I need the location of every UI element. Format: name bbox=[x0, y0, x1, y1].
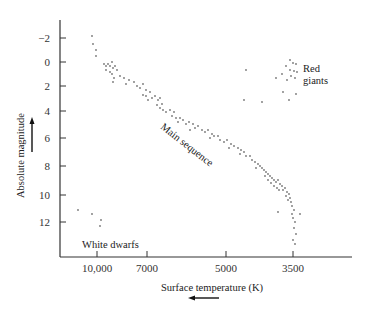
star-point bbox=[173, 111, 175, 113]
star-point bbox=[281, 185, 283, 187]
y-tick-label: 2 bbox=[45, 80, 51, 92]
star-point bbox=[286, 191, 288, 193]
star-point bbox=[279, 183, 281, 185]
chart-annotation: White dwarfs bbox=[82, 239, 139, 250]
annotations: Main sequenceRedgiantsWhite dwarfs bbox=[82, 63, 328, 250]
star-point bbox=[145, 89, 147, 91]
star-point bbox=[109, 71, 111, 73]
star-point bbox=[293, 70, 295, 72]
star-point bbox=[92, 43, 94, 45]
star-point bbox=[105, 69, 107, 71]
x-tick-label: 3500 bbox=[282, 262, 305, 274]
star-point bbox=[145, 95, 147, 97]
star-point bbox=[139, 87, 141, 89]
star-point bbox=[289, 59, 291, 61]
star-point bbox=[77, 209, 79, 211]
y-tick-label: 8 bbox=[45, 160, 51, 172]
star-point bbox=[251, 159, 253, 161]
star-point bbox=[165, 111, 167, 113]
star-point bbox=[192, 123, 194, 125]
star-point bbox=[292, 239, 294, 241]
star-point bbox=[91, 213, 93, 215]
star-point bbox=[201, 129, 203, 131]
chart-annotation: giants bbox=[303, 75, 328, 86]
star-point bbox=[290, 201, 292, 203]
star-point bbox=[112, 81, 114, 83]
y-tick-label: 12 bbox=[39, 216, 50, 228]
star-point bbox=[159, 107, 161, 109]
star-point bbox=[264, 175, 266, 177]
star-point bbox=[273, 185, 275, 187]
y-tick-label: −2 bbox=[38, 32, 50, 44]
star-point bbox=[112, 67, 114, 69]
star-point bbox=[95, 49, 97, 51]
chart-annotation: Red bbox=[303, 63, 321, 74]
star-point bbox=[295, 233, 297, 235]
star-point bbox=[273, 179, 275, 181]
star-point bbox=[213, 135, 215, 137]
star-point bbox=[114, 65, 116, 67]
star-point bbox=[282, 189, 284, 191]
star-point bbox=[257, 163, 259, 165]
star-point bbox=[154, 95, 156, 97]
star-point bbox=[275, 77, 277, 79]
star-point bbox=[263, 169, 265, 171]
star-point bbox=[237, 147, 239, 149]
star-point bbox=[233, 145, 235, 147]
y-tick-label: 0 bbox=[45, 56, 51, 68]
star-point bbox=[111, 73, 113, 75]
star-point bbox=[189, 129, 191, 131]
star-point bbox=[267, 173, 269, 175]
star-point bbox=[294, 77, 296, 79]
star-point bbox=[95, 55, 97, 57]
star-point bbox=[136, 85, 138, 87]
star-point bbox=[239, 153, 241, 155]
star-point bbox=[282, 91, 284, 93]
star-point bbox=[288, 193, 290, 195]
star-point bbox=[240, 149, 242, 151]
star-point bbox=[156, 104, 158, 106]
star-point bbox=[299, 213, 301, 215]
star-point bbox=[277, 179, 279, 181]
star-point bbox=[142, 83, 144, 85]
x-direction-arrow-icon bbox=[188, 296, 219, 301]
star-point bbox=[243, 151, 245, 153]
star-point bbox=[211, 133, 213, 135]
star-point bbox=[294, 221, 296, 223]
star-point bbox=[179, 117, 181, 119]
star-point bbox=[107, 63, 109, 65]
y-ticks: −2024681012 bbox=[38, 32, 66, 228]
star-point bbox=[185, 123, 187, 125]
star-point bbox=[209, 137, 211, 139]
star-point bbox=[267, 179, 269, 181]
star-point bbox=[292, 62, 294, 64]
star-point bbox=[261, 167, 263, 169]
star-point bbox=[289, 197, 291, 199]
star-point bbox=[281, 73, 283, 75]
star-point bbox=[105, 65, 107, 67]
star-point bbox=[91, 35, 93, 37]
x-ticks: 10,000700050003500 bbox=[82, 251, 305, 274]
star-point bbox=[295, 63, 297, 65]
star-point bbox=[243, 99, 245, 101]
star-point bbox=[116, 69, 118, 71]
star-point bbox=[285, 195, 287, 197]
star-point bbox=[275, 181, 277, 183]
star-point bbox=[295, 93, 297, 95]
star-point bbox=[99, 225, 101, 227]
star-point bbox=[161, 103, 163, 105]
star-point bbox=[109, 65, 111, 67]
star-point bbox=[188, 121, 190, 123]
star-point bbox=[100, 219, 102, 221]
star-point bbox=[265, 171, 267, 173]
star-point bbox=[226, 139, 228, 141]
star-point bbox=[293, 227, 295, 229]
star-point bbox=[113, 77, 115, 79]
star-point bbox=[103, 63, 105, 65]
star-point bbox=[175, 117, 177, 119]
chart-annotation: Main sequence bbox=[159, 121, 216, 169]
star-point bbox=[271, 177, 273, 179]
star-point bbox=[284, 187, 286, 189]
star-point bbox=[249, 155, 251, 157]
star-point bbox=[133, 81, 135, 83]
